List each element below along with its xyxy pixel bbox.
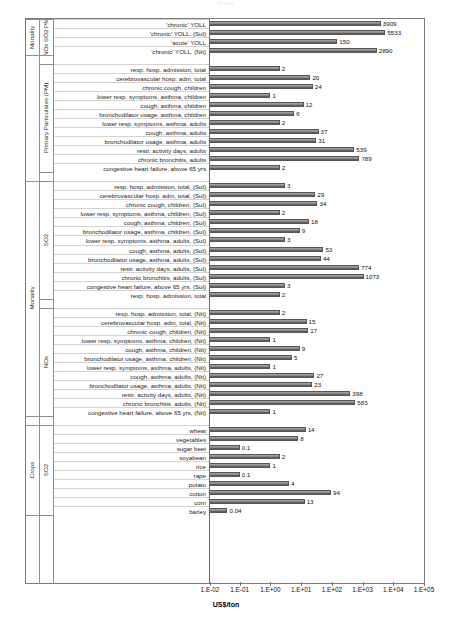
bar-value-label: 1 (272, 336, 275, 343)
inner-group-column: NOx SO2 PMPrimary Particulates (PM)SO2NO… (39, 18, 53, 584)
x-tick-mark (301, 582, 302, 586)
bar-value-label: 0.04 (229, 507, 241, 514)
bar-value-label: 3909 (383, 20, 397, 27)
bar (209, 156, 359, 161)
x-tick-mark (270, 582, 271, 586)
bar (209, 481, 289, 486)
group-separator (25, 181, 39, 182)
x-tick-label: 1.E-02 (201, 586, 220, 593)
table-row: sugar beet0.1 (53, 443, 424, 452)
bar (209, 319, 307, 324)
bar-value-label: 789 (361, 155, 371, 162)
table-row: resp. hosp. admission, total2 (53, 64, 424, 73)
bar (209, 454, 280, 459)
x-tick-mark (240, 582, 241, 586)
bar-value-label: 2 (282, 453, 285, 460)
group-separator (25, 515, 39, 516)
bar-value-label: 34 (319, 200, 326, 207)
bar-value-label: 9 (302, 345, 305, 352)
bar (209, 183, 285, 188)
bar (209, 75, 310, 80)
bar-rows: 'chronic' YOLL3909'chronic' YOLL, (Sul)5… (53, 19, 424, 583)
bar-value-label: 2 (282, 291, 285, 298)
bar (209, 436, 298, 441)
bar (209, 355, 292, 360)
bar-value-label: 24 (315, 83, 322, 90)
bar (209, 102, 304, 107)
bar (209, 472, 240, 477)
table-row: lower resp. symptoms, asthma, children1 (53, 91, 424, 100)
bar (209, 138, 316, 143)
group-separator (39, 19, 53, 20)
bar-value-label: 44 (323, 255, 330, 262)
group-label-inner: SO2 (39, 181, 53, 298)
table-row: potato4 (53, 479, 424, 488)
category-label: congestive heart failure, above 65 yrs (53, 164, 206, 173)
table-row: bronchodilator usage, asthma, adults, (N… (53, 380, 424, 389)
table-row: cough, asthma, children, (Sul)18 (53, 217, 424, 226)
bar-value-label: 53 (325, 246, 332, 253)
x-tick-mark (393, 582, 394, 586)
bar (209, 328, 308, 333)
bar (209, 391, 350, 396)
bar-value-label: 8 (300, 435, 303, 442)
bar-value-label: 23 (314, 381, 321, 388)
bar (209, 283, 285, 288)
group-separator (25, 425, 39, 426)
bar (209, 346, 300, 351)
table-row: lower resp. symptoms, asthma, adults, (N… (53, 362, 424, 371)
group-column-divider (53, 18, 54, 584)
bar-value-label: 2 (282, 209, 285, 216)
group-separator (25, 19, 39, 20)
faint-title: Umwelt (0, 1, 452, 6)
table-row: bronchodilator usage, asthma, adults, (S… (53, 254, 424, 263)
bar (209, 192, 315, 197)
value-axis-line (209, 19, 210, 583)
group-separator (25, 55, 39, 56)
table-row: rape0.1 (53, 470, 424, 479)
bar-value-label: 2 (282, 309, 285, 316)
table-row: cough, asthma, adults, (Sul)53 (53, 245, 424, 254)
bar-value-label: 94 (333, 489, 340, 496)
bar (209, 490, 331, 495)
table-row: chronic bronchitis, adults789 (53, 154, 424, 163)
bar (209, 499, 305, 504)
table-row: bronchodilator usage, asthma, children6 (53, 109, 424, 118)
bar (209, 66, 280, 71)
table-row: resp. hosp. admission, total, (Nit)2 (53, 308, 424, 317)
bar (209, 274, 364, 279)
bar-value-label: 539 (356, 146, 366, 153)
group-separator (39, 308, 53, 309)
bar-value-label: 20 (312, 74, 319, 81)
bar-value-label: 1 (272, 462, 275, 469)
category-label: barley (53, 507, 206, 516)
table-row: congestive heart failure, above 65 yrs, … (53, 281, 424, 290)
table-row: rice1 (53, 461, 424, 470)
table-row: restr. activity days, adults, (Nit)398 (53, 389, 424, 398)
bar (209, 165, 280, 170)
x-tick-label: 1.E-01 (230, 586, 249, 593)
x-tick-label: 1.E+04 (383, 586, 403, 593)
bar-value-label: 5533 (387, 29, 401, 36)
table-row: chronic bronchitis, adults, (Sul)1073 (53, 272, 424, 281)
group-separator (39, 172, 53, 173)
bar (209, 463, 270, 468)
bar-value-label: 31 (318, 137, 325, 144)
x-tick-mark (210, 582, 211, 586)
bar (209, 129, 319, 134)
bar (209, 400, 355, 405)
table-row: cough, asthma, children, (Nit)9 (53, 344, 424, 353)
table-row: barley0.04 (53, 506, 424, 515)
bar (209, 427, 306, 432)
group-label-inner: SO2 (39, 425, 53, 515)
bar-value-label: 774 (361, 264, 371, 271)
table-row: resp. hosp. admission, total2 (53, 290, 424, 299)
table-row: corn13 (53, 497, 424, 506)
bar-value-label: 37 (321, 128, 328, 135)
bar-value-label: 12 (306, 101, 313, 108)
table-row: lower resp. symptoms, asthma, adults2 (53, 118, 424, 127)
bar-value-label: 2 (282, 65, 285, 72)
bar (209, 237, 285, 242)
bar-value-label: 1073 (366, 273, 380, 280)
bar-value-label: 0.1 (242, 444, 251, 451)
